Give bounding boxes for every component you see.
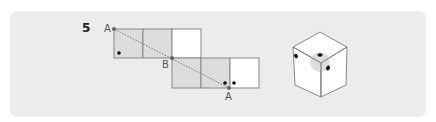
net-and-cube-diagram (0, 0, 436, 122)
net-dot (117, 51, 121, 55)
cube (293, 32, 347, 97)
point-a-bottom (227, 86, 231, 90)
point-a-top (112, 27, 116, 31)
point-b (170, 56, 174, 60)
cube-dot (317, 53, 322, 57)
net-dot (232, 81, 236, 85)
net-grid (114, 29, 259, 88)
label-a-top: A (104, 23, 111, 34)
label-b: B (162, 59, 169, 70)
label-a-bottom: A (225, 91, 232, 102)
net-dot (223, 81, 227, 85)
